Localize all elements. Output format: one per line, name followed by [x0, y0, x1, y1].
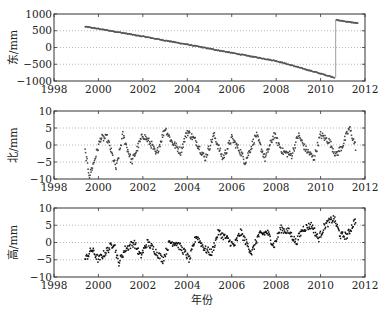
x-tick-label: 2010 [307, 83, 334, 95]
x-tick-label: 2008 [263, 279, 290, 291]
y-tick-label: 5 [45, 122, 52, 134]
y-tick-label: 0 [45, 236, 52, 248]
y-tick-label: 10 [39, 105, 52, 117]
y-tick-label: −5 [37, 253, 52, 265]
x-tick-label: 2002 [129, 279, 156, 291]
y-axis-label: 东/mm [7, 29, 20, 65]
x-tick-label: 2004 [174, 83, 201, 95]
x-tick-label: 2012 [352, 83, 379, 95]
panel-2: 199820002002200420062008201020121050−5−1… [7, 105, 378, 194]
x-tick-label: 2006 [218, 279, 245, 291]
x-tick-label: 2000 [85, 279, 112, 291]
y-tick-label: 5 [45, 219, 52, 231]
data-series [84, 126, 356, 179]
x-tick-label: 2000 [85, 83, 112, 95]
gnss-time-series-chart: 1998200020022004200620082010201210005000… [0, 0, 386, 312]
y-tick-label: −10 [30, 173, 52, 185]
x-tick-label: 2008 [263, 83, 290, 95]
y-tick-label: −5 [37, 156, 52, 168]
panel-1: 1998200020022004200620082010201210005000… [7, 8, 378, 96]
x-tick-label: 2012 [352, 279, 379, 291]
y-tick-label: 500 [32, 24, 52, 36]
y-axis-label: 北/mm [7, 127, 20, 163]
panel-3: 199820002002200420062008201020121050−5−1… [6, 202, 378, 308]
x-axis-label: 年份 [191, 293, 213, 307]
x-tick-label: 2006 [218, 83, 245, 95]
x-tick-label: 2010 [307, 181, 334, 193]
y-axis-label: 高/mm [6, 224, 20, 260]
x-tick-label: 2012 [352, 181, 379, 193]
y-tick-label: 0 [45, 139, 52, 151]
x-tick-label: 2008 [263, 181, 290, 193]
x-tick-label: 2006 [218, 181, 245, 193]
data-series [84, 215, 356, 266]
y-tick-label: 10 [39, 202, 52, 214]
x-tick-label: 2004 [174, 181, 201, 193]
x-tick-label: 2004 [174, 279, 201, 291]
y-tick-label: −500 [23, 58, 52, 70]
y-tick-label: 0 [45, 41, 52, 53]
y-tick-label: 1000 [25, 8, 52, 20]
x-tick-label: 2002 [129, 181, 156, 193]
data-series [84, 19, 358, 79]
y-tick-label: −10 [30, 271, 52, 283]
x-tick-label: 2000 [85, 181, 112, 193]
x-tick-label: 2010 [307, 279, 334, 291]
x-tick-label: 2002 [129, 83, 156, 95]
y-tick-label: −1000 [16, 75, 52, 87]
